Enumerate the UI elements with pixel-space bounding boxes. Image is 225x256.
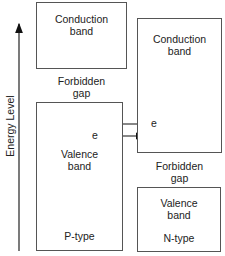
n-conduction-band-label: Conduction band <box>137 33 222 57</box>
n-valence-band-label: Valence band <box>137 197 221 221</box>
p-valence-band-label: Valence band <box>36 148 123 172</box>
n-type-label: N-type <box>137 232 221 244</box>
p-conduction-band-label: Conduction band <box>36 13 127 37</box>
energy-axis-label: Energy Level <box>4 94 16 158</box>
p-type-label: P-type <box>36 230 123 242</box>
p-forbidden-gap-label: Forbidden gap <box>36 75 127 99</box>
electron-label-from-n: e <box>149 117 159 129</box>
p-valence-band-box <box>36 102 123 251</box>
electron-label-from-p: e <box>90 129 100 141</box>
n-forbidden-gap-label: Forbidden gap <box>137 160 222 184</box>
